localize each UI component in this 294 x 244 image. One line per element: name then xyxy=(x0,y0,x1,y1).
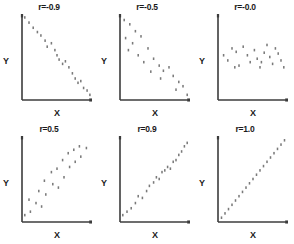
data-point xyxy=(249,182,251,185)
plot-area xyxy=(120,14,190,100)
data-point xyxy=(79,145,81,148)
x-axis-arrow-icon xyxy=(89,98,92,101)
data-point xyxy=(68,66,70,69)
data-point xyxy=(44,39,46,42)
data-point xyxy=(263,165,265,168)
data-point xyxy=(247,54,249,57)
data-point xyxy=(54,49,56,52)
data-point xyxy=(40,34,42,37)
data-point xyxy=(56,167,58,170)
data-point xyxy=(266,44,268,47)
y-axis-arrow-icon xyxy=(21,136,23,139)
scatter-panel-3: r=0.5 Y X xyxy=(0,122,98,244)
scatter-svg-2 xyxy=(218,14,288,100)
scatter-svg-4 xyxy=(120,136,190,222)
data-point xyxy=(161,171,163,174)
x-axis-label: X xyxy=(218,230,288,240)
data-point xyxy=(62,159,64,162)
data-point xyxy=(72,72,74,75)
x-axis-label: X xyxy=(120,108,190,118)
data-point xyxy=(83,87,85,90)
panel-title: r=1.0 xyxy=(196,124,294,134)
data-point xyxy=(242,45,244,48)
data-point xyxy=(130,207,132,210)
scatter-panel-1: r=-0.5 Y X xyxy=(98,0,196,122)
data-point xyxy=(228,208,230,211)
data-point xyxy=(280,59,282,62)
plot-area xyxy=(218,136,288,222)
data-point xyxy=(67,152,69,155)
data-point xyxy=(74,77,76,80)
data-point xyxy=(140,35,142,38)
data-point xyxy=(261,61,263,64)
data-point xyxy=(80,155,82,158)
panel-grid: r=-0.9 Y X r=-0.5 Y X r=-0.0 Y X r=0.5 xyxy=(0,0,294,244)
data-point xyxy=(125,37,127,40)
x-axis-label: X xyxy=(22,230,92,240)
data-point xyxy=(147,47,149,50)
data-point xyxy=(58,186,60,189)
y-axis-arrow-icon xyxy=(217,14,219,17)
data-point xyxy=(28,21,30,24)
data-point xyxy=(254,49,256,52)
y-axis-label: Y xyxy=(101,56,107,66)
data-point xyxy=(186,142,188,145)
data-point xyxy=(146,190,148,193)
data-point xyxy=(263,51,265,54)
y-axis-arrow-icon xyxy=(217,136,219,139)
y-axis-arrow-icon xyxy=(119,136,121,139)
data-point xyxy=(65,60,67,63)
data-point xyxy=(137,195,139,198)
scatter-svg-0 xyxy=(22,14,92,100)
data-point xyxy=(132,42,134,45)
data-point xyxy=(41,205,43,208)
data-point xyxy=(63,176,65,179)
plot-area xyxy=(22,136,92,222)
data-point xyxy=(142,197,144,200)
data-point xyxy=(80,80,82,83)
data-point xyxy=(135,202,137,205)
data-point xyxy=(178,81,180,84)
x-axis-label: X xyxy=(120,230,190,240)
y-axis-label: Y xyxy=(3,56,9,66)
data-point xyxy=(256,57,258,60)
data-point xyxy=(231,47,233,50)
data-point xyxy=(252,178,254,181)
data-point xyxy=(51,171,53,174)
data-point xyxy=(259,66,261,69)
data-point xyxy=(283,66,285,69)
data-point xyxy=(277,148,279,151)
data-point xyxy=(234,66,236,69)
data-point xyxy=(175,159,177,162)
data-point xyxy=(129,23,131,26)
data-point xyxy=(275,47,277,50)
scatter-svg-5 xyxy=(218,136,288,222)
data-point xyxy=(24,214,26,217)
data-point xyxy=(135,30,137,33)
data-point xyxy=(238,64,240,67)
data-point xyxy=(128,49,130,52)
data-point xyxy=(123,19,125,22)
data-point xyxy=(45,193,47,196)
data-point xyxy=(69,166,71,169)
data-point xyxy=(86,147,88,150)
data-point xyxy=(182,85,184,88)
y-axis-label: Y xyxy=(199,56,205,66)
correlation-scatterplot-figure: r=-0.9 Y X r=-0.5 Y X r=-0.0 Y X r=0.5 xyxy=(0,0,294,244)
panel-title: r=0.5 xyxy=(0,124,98,134)
data-point xyxy=(74,161,76,164)
data-point xyxy=(122,214,124,217)
x-axis-arrow-icon xyxy=(187,220,190,223)
data-point xyxy=(272,63,274,66)
scatter-panel-5: r=1.0 Y X xyxy=(196,122,294,244)
x-axis-arrow-icon xyxy=(89,220,92,223)
data-point xyxy=(158,178,160,181)
data-point xyxy=(137,54,139,57)
data-point xyxy=(172,75,174,78)
data-point xyxy=(149,185,151,188)
data-point xyxy=(30,210,32,213)
data-point xyxy=(223,54,225,57)
data-point xyxy=(143,61,145,64)
data-point xyxy=(266,161,268,164)
plot-area xyxy=(120,136,190,222)
